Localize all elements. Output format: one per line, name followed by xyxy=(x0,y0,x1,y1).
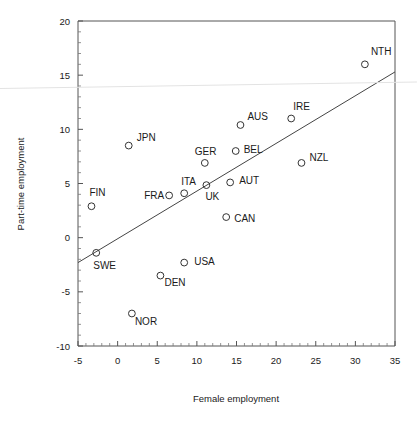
data-point-nth: NTH xyxy=(361,46,391,67)
x-tick-label: 30 xyxy=(350,355,361,366)
point-marker xyxy=(298,160,305,167)
data-point-usa: USA xyxy=(181,256,215,267)
point-label: DEN xyxy=(164,277,185,288)
point-label: FRA xyxy=(144,190,164,201)
point-marker xyxy=(201,160,208,167)
point-marker xyxy=(88,203,95,210)
point-label: USA xyxy=(194,256,215,267)
minor-ticks xyxy=(78,32,387,346)
data-point-can: CAN xyxy=(223,213,256,224)
point-label: FIN xyxy=(89,187,105,198)
point-label: ITA xyxy=(181,176,196,187)
y-tick-label: 5 xyxy=(65,178,70,189)
data-point-den: DEN xyxy=(157,272,186,287)
x-tick-label: 25 xyxy=(310,355,321,366)
point-label: AUS xyxy=(247,111,268,122)
data-point-jpn: JPN xyxy=(125,132,155,149)
data-point-ger: GER xyxy=(195,146,217,166)
point-marker xyxy=(125,142,132,149)
y-tick-label: 15 xyxy=(59,70,70,81)
x-tick-label: 10 xyxy=(192,355,203,366)
major-ticks xyxy=(78,21,395,346)
point-marker xyxy=(288,115,295,122)
y-tick-label: 10 xyxy=(59,124,70,135)
fit-line-group xyxy=(78,72,395,263)
plot-frame xyxy=(78,21,395,346)
x-tick-label: 20 xyxy=(271,355,282,366)
data-point-nzl: NZL xyxy=(298,152,329,166)
data-point-ita: ITA xyxy=(181,176,197,196)
y-tick-label: 0 xyxy=(65,232,70,243)
point-marker xyxy=(237,122,244,129)
data-point-ire: IRE xyxy=(288,101,310,122)
point-marker xyxy=(361,61,368,68)
y-tick-labels: -10-505101520 xyxy=(56,16,70,352)
y-tick-label: -5 xyxy=(62,286,70,297)
point-label: CAN xyxy=(234,213,255,224)
data-point-bel: BEL xyxy=(232,144,263,155)
data-point-nor: NOR xyxy=(128,310,157,326)
point-label: BEL xyxy=(244,144,263,155)
data-point-aus: AUS xyxy=(237,111,268,128)
data-point-fin: FIN xyxy=(88,187,106,209)
x-tick-label: 35 xyxy=(390,355,401,366)
point-label: NZL xyxy=(309,152,328,163)
x-tick-label: 5 xyxy=(155,355,160,366)
x-tick-label: 0 xyxy=(115,355,120,366)
x-axis-title: Female employment xyxy=(193,393,279,404)
point-label: NOR xyxy=(135,316,157,327)
point-marker xyxy=(157,272,164,279)
point-label: JPN xyxy=(137,132,156,143)
data-point-fra: FRA xyxy=(144,190,172,201)
point-marker xyxy=(227,179,234,186)
scatter-plot-figure: -505101520253035 -10-505101520 NTHIREAUS… xyxy=(0,0,417,422)
point-marker xyxy=(181,190,188,197)
point-label: IRE xyxy=(293,101,310,112)
y-tick-label: -10 xyxy=(56,341,70,352)
data-point-swe: SWE xyxy=(93,249,117,270)
point-label: NTH xyxy=(371,46,392,57)
data-points: NTHIREAUSJPNBELGERNZLAUTUKITAFRAFINCANSW… xyxy=(88,46,391,326)
y-axis-title: Part-time employment xyxy=(15,137,26,230)
x-tick-label: -5 xyxy=(74,355,82,366)
x-tick-labels: -505101520253035 xyxy=(74,355,401,366)
point-marker xyxy=(223,214,230,221)
point-label: AUT xyxy=(239,175,259,186)
chart-canvas: -505101520253035 -10-505101520 NTHIREAUS… xyxy=(0,0,417,422)
point-label: UK xyxy=(205,191,219,202)
point-marker xyxy=(181,259,188,266)
x-tick-label: 15 xyxy=(231,355,242,366)
point-marker xyxy=(232,148,239,155)
point-marker xyxy=(166,192,173,199)
point-label: GER xyxy=(195,146,217,157)
data-point-uk: UK xyxy=(203,182,220,202)
data-point-aut: AUT xyxy=(227,175,259,186)
point-label: SWE xyxy=(93,260,116,271)
y-tick-label: 20 xyxy=(59,16,70,27)
